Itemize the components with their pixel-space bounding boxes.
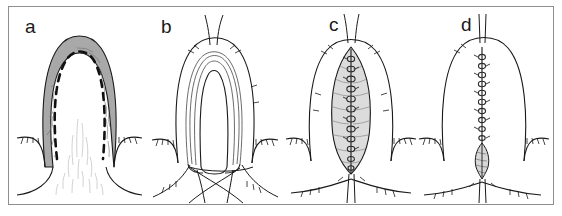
panel-a: a bbox=[11, 7, 147, 204]
panel-c: c bbox=[283, 7, 419, 204]
panel-d-drawing bbox=[417, 7, 553, 204]
figure-frame: a bbox=[8, 6, 554, 205]
panel-b: b bbox=[147, 7, 283, 204]
crossing-suture-strands bbox=[153, 165, 278, 203]
outer-contour bbox=[176, 38, 254, 163]
lower-contour-lines bbox=[152, 139, 278, 174]
panel-d: d bbox=[417, 7, 553, 204]
double-rail-incision-edges bbox=[186, 52, 242, 165]
panel-d-label: d bbox=[461, 15, 472, 34]
apex-thread-pair bbox=[479, 14, 486, 43]
panel-a-label: a bbox=[25, 17, 36, 36]
figure-root: a bbox=[0, 0, 562, 216]
inner-cavity-contour bbox=[200, 71, 228, 168]
panel-b-label: b bbox=[161, 17, 172, 36]
apex-thread-pair bbox=[344, 14, 359, 43]
apex-thread-pair bbox=[205, 15, 223, 45]
vertical-running-suture bbox=[474, 47, 490, 147]
lower-contour-lines bbox=[17, 137, 142, 195]
central-vessel-strands bbox=[56, 119, 103, 195]
base-thread-pair bbox=[347, 174, 355, 203]
panel-c-drawing bbox=[283, 7, 419, 204]
dashed-incision-line bbox=[55, 52, 105, 160]
residual-shaded-oval bbox=[475, 143, 489, 179]
panel-c-label: c bbox=[329, 15, 339, 34]
